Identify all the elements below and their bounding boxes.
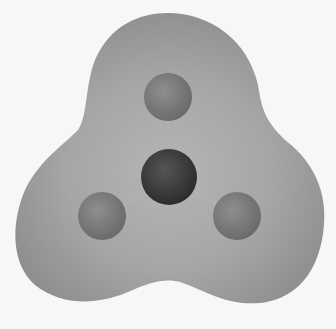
molecule-figure: Electrostatic potential surface with bal… xyxy=(0,0,336,329)
outer-atom-left xyxy=(78,192,126,240)
outer-atom-right xyxy=(213,192,261,240)
central-atom xyxy=(141,149,197,205)
molecule-visualization xyxy=(0,0,336,329)
outer-atom-top xyxy=(144,73,192,121)
